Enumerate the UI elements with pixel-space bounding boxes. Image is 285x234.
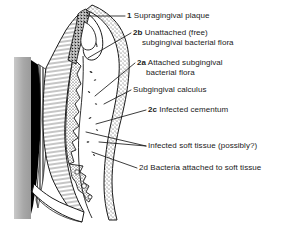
- label-tag-2a: 2a: [137, 58, 146, 67]
- label-bacteria-attached-soft-tissue: 2d Bacteria attached to soft tissue: [139, 163, 261, 173]
- label-text-2d: Bacteria attached to soft tissue: [150, 163, 261, 172]
- label-subtext-2a: bacterial flora: [137, 68, 223, 78]
- label-supragingival-plaque: 1 Supragingival plaque: [127, 11, 210, 21]
- label-attached-subgingival-flora: 2a Attached subgingival bacterial flora: [137, 58, 223, 77]
- label-subgingival-calculus: Subgingival calculus: [133, 85, 207, 95]
- label-text-calculus: Subgingival calculus: [133, 85, 207, 94]
- label-text-2c: Infected cementum: [159, 105, 228, 114]
- label-subtext-2b: subgingival bacterial flora: [133, 38, 234, 48]
- label-tag-2c: 2c: [148, 105, 157, 114]
- label-tag-2d: 2d: [139, 163, 148, 172]
- label-infected-soft-tissue: Infected soft tissue (possibly?): [148, 141, 257, 151]
- label-text-1: Supragingival plaque: [134, 11, 210, 20]
- label-tag-2b: 2b: [133, 28, 142, 37]
- label-text-infected-soft-tissue: Infected soft tissue (possibly?): [148, 141, 257, 150]
- label-unattached-subgingival-flora: 2b Unattached (free) subgingival bacteri…: [133, 28, 234, 47]
- label-text-2a: Attached subgingival: [148, 58, 223, 67]
- tooth-cut-margin: [14, 57, 31, 219]
- bacteria-marks: [87, 71, 99, 156]
- label-text-2b: Unattached (free): [145, 28, 208, 37]
- periodontal-pocket-figure: 1 Supragingival plaque 2b Unattached (fr…: [0, 0, 285, 234]
- label-infected-cementum: 2c Infected cementum: [148, 105, 228, 115]
- label-tag-1: 1: [127, 11, 132, 20]
